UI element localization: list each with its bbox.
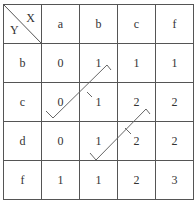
- table-cell: 1: [156, 44, 194, 83]
- table-cell: 1: [80, 161, 118, 200]
- col-header: b: [80, 5, 118, 44]
- table-cell: 3: [156, 161, 194, 200]
- table-row: d 0 1 2 2: [4, 122, 194, 161]
- col-header: f: [156, 5, 194, 44]
- table-row: b 0 1 1 1: [4, 44, 194, 83]
- table-cell: 2: [118, 83, 156, 122]
- row-header: d: [4, 122, 42, 161]
- table-cell: 2: [118, 161, 156, 200]
- col-header: a: [42, 5, 80, 44]
- header-row: X Y a b c f: [4, 5, 194, 44]
- row-header: b: [4, 44, 42, 83]
- row-axis-label: Y: [10, 23, 19, 38]
- corner-cell: X Y: [4, 5, 42, 44]
- col-axis-label: X: [26, 11, 35, 26]
- table-row: c 0 1 2 2: [4, 83, 194, 122]
- row-header: f: [4, 161, 42, 200]
- table-cell: 0: [42, 122, 80, 161]
- table-cell: 2: [156, 122, 194, 161]
- table-cell: 1: [118, 44, 156, 83]
- table-cell: 1: [42, 161, 80, 200]
- table-cell: 0: [42, 44, 80, 83]
- table-cell: 2: [156, 83, 194, 122]
- table-cell: 2: [118, 122, 156, 161]
- table-row: f 1 1 2 3: [4, 161, 194, 200]
- table-cell: 1: [80, 122, 118, 161]
- lcs-table: X Y a b c f b 0 1 1 1 c 0 1 2 2 d 0 1 2 …: [3, 4, 194, 200]
- table-cell: 1: [80, 83, 118, 122]
- table-cell: 1: [80, 44, 118, 83]
- row-header: c: [4, 83, 42, 122]
- col-header: c: [118, 5, 156, 44]
- table-cell: 0: [42, 83, 80, 122]
